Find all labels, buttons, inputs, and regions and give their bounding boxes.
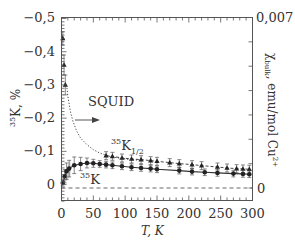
y-left-tick-label: −0,5 <box>23 10 55 25</box>
data-point-triangle <box>234 166 239 171</box>
data-point-circle <box>85 161 90 166</box>
x-tick-label: 250 <box>208 206 233 221</box>
data-point-circle <box>247 172 252 177</box>
squid-arrow-head <box>92 117 100 123</box>
data-point-circle <box>139 166 144 171</box>
k-main: K <box>90 172 100 187</box>
data-point-circle <box>148 166 153 171</box>
data-point-triangle <box>154 159 159 164</box>
k-half-main: K <box>121 138 131 153</box>
data-point-circle <box>241 172 246 177</box>
y-left-tick-label: −0,3 <box>23 77 55 92</box>
data-point-circle <box>104 162 109 167</box>
svg-text:35K, %: 35K, % <box>8 89 23 127</box>
x-tick-label: 100 <box>113 206 138 221</box>
x-tick-labels: 050100150200250300 <box>57 206 265 221</box>
data-point-circle <box>72 163 77 168</box>
svg-text:35K: 35K <box>80 171 100 187</box>
data-point-circle <box>78 162 83 167</box>
data-point-circle <box>202 170 207 175</box>
x-tick-label: 150 <box>145 206 170 221</box>
x-axis-label: T, K <box>141 224 165 238</box>
y-left-label-main: K, % <box>9 89 23 117</box>
data-point-triangle <box>119 155 124 160</box>
y-left-tick-label: −0,4 <box>23 44 55 59</box>
data-point-triangle <box>199 163 204 168</box>
series-layer <box>60 32 252 186</box>
k-sup: 35 <box>80 171 90 180</box>
y-right-tick-label-max: 0,007 <box>256 10 293 25</box>
y-left-tick-labels: 0−0,1−0,2−0,3−0,4−0,5 <box>23 10 55 191</box>
svg-text:χbulk, emu/mol Cu2+: χbulk, emu/mol Cu2+ <box>263 53 279 167</box>
y-left-tick-label: −0,2 <box>23 110 55 125</box>
data-point-triangle <box>103 153 108 158</box>
data-point-circle <box>190 169 195 174</box>
data-point-circle <box>231 171 236 176</box>
data-point-circle <box>215 171 220 176</box>
k-half-sub: 1/2 <box>131 147 144 156</box>
squid-label: SQUID <box>88 94 134 109</box>
x-tick-label: 0 <box>57 206 65 221</box>
data-point-circle <box>120 164 125 169</box>
x-tick-label: 300 <box>240 206 265 221</box>
annotation-k: 35K <box>80 171 100 187</box>
data-point-triangle <box>189 162 194 167</box>
data-point-triangle <box>61 62 66 67</box>
data-point-triangle <box>224 165 229 170</box>
y-right-label-sub: bulk <box>263 60 271 76</box>
y-right-label-sup: 2+ <box>271 157 279 167</box>
annotation-k-half: 35K1/2 <box>111 137 144 156</box>
y-left-label-sup: 35 <box>8 117 17 127</box>
svg-text:35K1/2: 35K1/2 <box>111 137 144 156</box>
data-point-circle <box>91 161 96 166</box>
annotation-squid: SQUID <box>75 94 134 123</box>
data-point-triangle <box>60 36 65 41</box>
y-right-tick-label-0: 0 <box>257 181 265 196</box>
data-point-circle <box>155 167 160 172</box>
data-point-circle <box>129 165 134 170</box>
y-right-axis-label: χbulk, emu/mol Cu2+ <box>263 53 279 167</box>
y-right-label-rest: , emu/mol Cu <box>265 76 279 157</box>
y-left-tick-label: −0,1 <box>23 143 55 158</box>
k-half-sup: 35 <box>111 137 121 146</box>
y-left-tick-label: 0 <box>47 177 55 192</box>
data-point-triangle <box>110 154 115 159</box>
y-left-axis-label: 35K, % <box>8 89 23 127</box>
chart: 050100150200250300 0−0,1−0,2−0,3−0,4−0,5… <box>0 0 295 246</box>
data-point-circle <box>67 166 72 171</box>
data-point-circle <box>110 163 115 168</box>
x-tick-label: 50 <box>85 206 102 221</box>
x-tick-label: 200 <box>176 206 201 221</box>
data-point-circle <box>97 162 102 167</box>
data-point-circle <box>177 168 182 173</box>
